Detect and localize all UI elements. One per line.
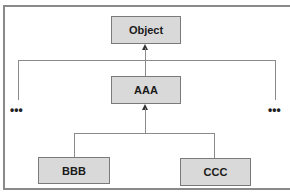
edge-junction-to-aaa	[145, 108, 146, 134]
edge-ccc	[214, 133, 215, 158]
edge-left-sibling	[18, 60, 19, 100]
edge-siblings-bar	[18, 60, 276, 61]
edge-right-sibling	[275, 60, 276, 100]
ellipsis-right: •••	[268, 105, 281, 115]
node-ccc-label: CCC	[204, 166, 228, 178]
edge-aaa-to-object	[145, 48, 146, 76]
node-object: Object	[111, 16, 181, 44]
edge-bbb	[74, 133, 75, 157]
node-bbb-label: BBB	[62, 165, 86, 177]
edge-children-bar	[74, 133, 215, 134]
ellipsis-left: •••	[10, 105, 23, 115]
node-aaa-label: AAA	[134, 84, 158, 96]
node-object-label: Object	[129, 24, 163, 36]
node-bbb: BBB	[38, 157, 110, 184]
node-aaa: AAA	[111, 76, 181, 104]
node-ccc: CCC	[180, 158, 251, 186]
